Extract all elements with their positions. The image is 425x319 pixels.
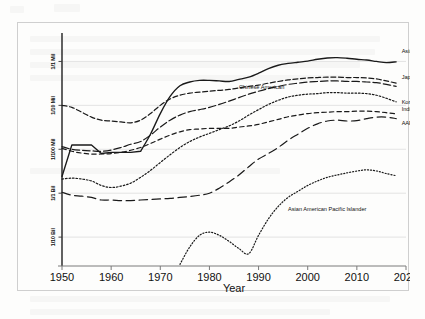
xtick-label: 1980 <box>197 271 221 283</box>
series-label-korean-american: Korean American <box>402 99 410 105</box>
series-line-korean-american <box>62 93 396 188</box>
series-line-asian-american-pacific-islander <box>180 170 396 264</box>
ngram-line-chart: 19501960197019801990200020102020Year1/1 … <box>18 23 410 292</box>
ytick-label: 1/1 Mil <box>50 53 56 69</box>
series-label-aapi: AAPI <box>402 120 410 126</box>
ytick-label: 1/1 Bil <box>50 185 56 201</box>
ytick-label: 1/10 Mil <box>50 95 56 114</box>
page-artifact <box>30 309 330 315</box>
series-label-indian-american: Indian American <box>402 106 410 112</box>
series-line-asian-american <box>62 58 396 177</box>
xtick-label: 1970 <box>148 271 172 283</box>
series-line-chinese-american <box>62 77 396 123</box>
series-label-japanese-american: Japanese American <box>402 74 410 80</box>
series-line-japanese-american <box>62 81 396 151</box>
x-axis-title: Year <box>223 282 246 292</box>
series-label-asian-american: Asian American <box>402 48 410 54</box>
xtick-label: 2000 <box>295 271 319 283</box>
figure-frame: 19501960197019801990200020102020Year1/1 … <box>17 22 409 291</box>
xtick-label: 1950 <box>50 271 74 283</box>
ytick-label: 1/10 Bil <box>50 227 56 246</box>
page-artifact <box>30 296 390 302</box>
page-artifact <box>54 4 80 12</box>
series-line-aapi <box>62 117 396 201</box>
ytick-label: 1/100 Mil <box>50 138 56 160</box>
page-artifact <box>10 6 24 13</box>
xtick-label: 2010 <box>345 271 369 283</box>
series-label-chinese-american: Chinese American <box>239 84 284 90</box>
xtick-label: 2020 <box>394 271 410 283</box>
series-line-indian-american <box>62 111 396 154</box>
xtick-label: 1960 <box>99 271 123 283</box>
xtick-label: 1990 <box>246 271 270 283</box>
series-label-asian-american-pacific-islander: Asian American Pacific Islander <box>288 206 366 212</box>
